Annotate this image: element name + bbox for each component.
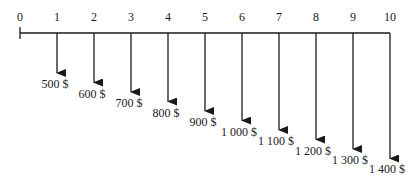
- cash-flow-amount-6: 1 000 $: [221, 126, 257, 138]
- cash-flow-amount-3: 700 $: [116, 97, 143, 109]
- cash-flow-amount-4: 800 $: [153, 107, 180, 119]
- cash-flow-diagram: 0 1 2 3 4 5 6 7 8 9 10 500 $ 600 $ 700 $…: [0, 0, 413, 178]
- period-label-6: 6: [239, 11, 245, 23]
- period-label-2: 2: [91, 11, 97, 23]
- cash-flow-amount-5: 900 $: [190, 116, 217, 128]
- cash-flow-amount-8: 1 200 $: [295, 145, 331, 157]
- period-label-5: 5: [202, 11, 208, 23]
- cash-flow-amount-10: 1 400 $: [369, 163, 405, 175]
- period-label-0: 0: [17, 11, 23, 23]
- period-label-8: 8: [313, 11, 319, 23]
- cash-flow-amount-7: 1 100 $: [258, 135, 294, 147]
- cash-flow-amount-1: 500 $: [42, 78, 69, 90]
- period-label-1: 1: [54, 11, 60, 23]
- period-label-7: 7: [276, 11, 282, 23]
- cash-flow-amount-9: 1 300 $: [332, 154, 368, 166]
- period-label-4: 4: [165, 11, 171, 23]
- period-label-10: 10: [384, 11, 396, 23]
- cash-flow-amount-2: 600 $: [79, 88, 106, 100]
- period-label-3: 3: [128, 11, 134, 23]
- period-label-9: 9: [350, 11, 356, 23]
